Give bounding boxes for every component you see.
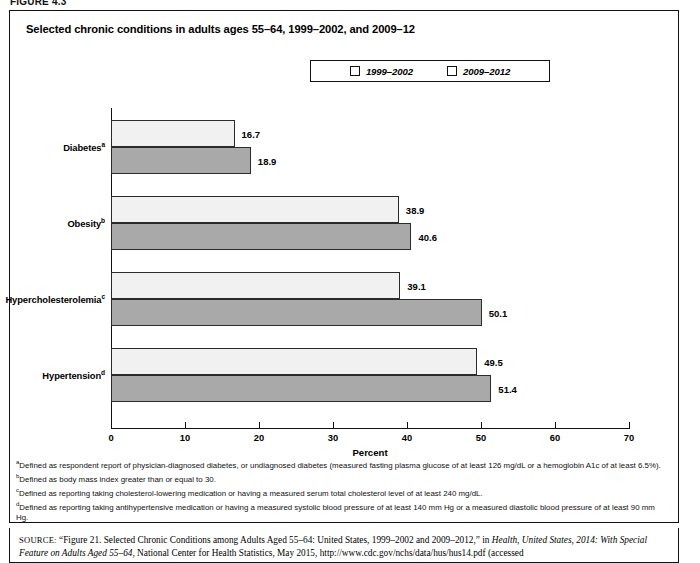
x-axis-tick-label: 50 xyxy=(476,432,486,443)
footnote-marker: b xyxy=(16,473,19,479)
category-label-obesity: Obesityb xyxy=(0,217,112,229)
category-footnote-marker: a xyxy=(101,141,105,148)
figure-label: FIGURE 4.3 xyxy=(10,0,66,7)
bar-hypertension-1999–2002 xyxy=(111,348,477,375)
bar-value-label: 40.6 xyxy=(418,231,437,242)
category-label-hypertension: Hypertensiond xyxy=(0,369,112,381)
bar-value-label: 50.1 xyxy=(489,307,508,318)
x-axis-tick-label: 10 xyxy=(180,432,190,443)
x-axis-tick-label: 70 xyxy=(624,432,634,443)
source-text-part2: , National Center for Health Statistics,… xyxy=(132,548,523,558)
chart-legend: 1999–2002 2009–2012 xyxy=(310,60,550,82)
legend-item-2009-2012: 2009–2012 xyxy=(447,66,510,77)
bar-hypercholesterolemia-2009–2012 xyxy=(111,299,482,326)
x-axis-line xyxy=(111,428,629,429)
legend-label-2009-2012: 2009–2012 xyxy=(463,66,510,77)
bar-obesity-1999–2002 xyxy=(111,196,399,223)
source-label: SOURCE: xyxy=(19,535,57,545)
bar-value-label: 39.1 xyxy=(407,280,426,291)
bar-obesity-2009–2012 xyxy=(111,223,411,250)
bar-diabetes-2009–2012 xyxy=(111,147,251,174)
x-axis-tick-label: 20 xyxy=(254,432,264,443)
category-footnote-marker: b xyxy=(101,217,105,224)
bar-value-label: 18.9 xyxy=(258,155,277,166)
legend-swatch-dark-icon xyxy=(447,66,457,76)
source-text-part1: “Figure 21. Selected Chronic Conditions … xyxy=(57,535,492,545)
footnote-b: bDefined as body mass index greater than… xyxy=(16,472,668,485)
footnote-marker: d xyxy=(16,501,19,507)
bar-diabetes-1999–2002 xyxy=(111,120,235,147)
x-axis-tick xyxy=(629,422,630,429)
category-footnote-marker: d xyxy=(101,369,105,376)
plot-area: 16.718.938.940.639.150.149.551.4 xyxy=(111,112,629,425)
legend-item-1999-2002: 1999–2002 xyxy=(350,66,413,77)
bar-value-label: 16.7 xyxy=(242,128,261,139)
footnote-d: dDefined as reporting taking antihyperte… xyxy=(16,500,668,524)
bar-hypercholesterolemia-1999–2002 xyxy=(111,272,400,299)
x-axis-tick-label: 0 xyxy=(108,432,113,443)
bar-value-label: 49.5 xyxy=(484,356,503,367)
footnote-c: cDefined as reporting taking cholesterol… xyxy=(16,486,668,499)
x-axis-tick-label: 40 xyxy=(402,432,412,443)
bar-value-label: 38.9 xyxy=(406,204,425,215)
chart-title: Selected chronic conditions in adults ag… xyxy=(26,23,415,35)
x-axis-title: Percent xyxy=(352,447,387,458)
bar-value-label: 51.4 xyxy=(498,383,517,394)
legend-swatch-light-icon xyxy=(350,66,360,76)
footnote-a: aDefined as respondent report of physici… xyxy=(16,458,668,471)
footnote-marker: c xyxy=(16,487,19,493)
bar-hypertension-2009–2012 xyxy=(111,375,491,402)
footnotes-block: aDefined as respondent report of physici… xyxy=(16,458,668,524)
x-axis-tick-label: 60 xyxy=(550,432,560,443)
category-label-hypercholesterolemia: Hypercholesterolemiac xyxy=(0,293,112,305)
category-footnote-marker: c xyxy=(101,293,105,300)
legend-label-1999-2002: 1999–2002 xyxy=(366,66,413,77)
source-block: SOURCE: “Figure 21. Selected Chronic Con… xyxy=(9,528,679,563)
x-axis-tick-label: 30 xyxy=(328,432,338,443)
category-label-diabetes: Diabetesa xyxy=(0,141,112,153)
footnote-marker: a xyxy=(16,459,19,465)
